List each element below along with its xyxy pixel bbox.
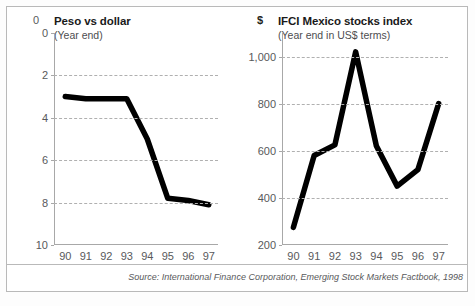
x-tick-label: 93 — [350, 250, 362, 262]
gridline — [282, 57, 448, 58]
x-tick-label: 90 — [287, 250, 299, 262]
chart-panel-peso-vs-dollar: 0 Peso vs dollar (Year end) 024681090919… — [8, 0, 230, 262]
y-tick-label: 400 — [258, 192, 276, 204]
y-tick-mark — [51, 245, 54, 246]
x-tick-label: 93 — [121, 250, 133, 262]
y-tick-mark — [51, 203, 54, 204]
figure-root: 0 Peso vs dollar (Year end) 024681090919… — [0, 0, 475, 306]
y-tick-label: 10 — [36, 239, 48, 251]
gridline — [282, 198, 448, 199]
chart-panel-ifci-mexico-stocks-index: $ IFCI Mexico stocks index (Year end in … — [232, 0, 460, 262]
y-tick-mark — [51, 33, 54, 34]
x-tick-label: 94 — [370, 250, 382, 262]
y-tick-label: 4 — [42, 112, 48, 124]
series-line-peso-vs-dollar — [54, 33, 218, 245]
y-tick-label: 2 — [42, 69, 48, 81]
x-tick-label: 97 — [203, 250, 215, 262]
gridline — [54, 203, 218, 204]
plot-area-peso-vs-dollar: 02468109091929394959697 — [54, 33, 218, 245]
x-tick-label: 95 — [391, 250, 403, 262]
x-tick-label: 94 — [141, 250, 153, 262]
y-tick-mark — [279, 57, 282, 58]
y-tick-mark — [51, 75, 54, 76]
y-tick-mark — [279, 104, 282, 105]
x-tick-label: 90 — [59, 250, 71, 262]
source-note: Source: International Finance Corporatio… — [128, 272, 463, 282]
x-tick-label: 95 — [162, 250, 174, 262]
y-tick-label: 800 — [258, 98, 276, 110]
y-tick-mark — [51, 160, 54, 161]
x-tick-label: 92 — [329, 250, 341, 262]
data-series-line — [65, 97, 209, 205]
data-series-line — [293, 52, 438, 227]
y-tick-mark — [279, 198, 282, 199]
x-tick-label: 91 — [308, 250, 320, 262]
gridline — [282, 104, 448, 105]
series-line-ifci-mexico-stocks-index — [282, 33, 448, 245]
y-unit-label-right: $ — [232, 14, 270, 27]
y-tick-label: 6 — [42, 154, 48, 166]
x-tick-label: 96 — [182, 250, 194, 262]
gridline — [54, 75, 218, 76]
y-tick-label: 8 — [42, 197, 48, 209]
y-tick-mark — [279, 245, 282, 246]
x-tick-label: 97 — [433, 250, 445, 262]
y-tick-label: 200 — [258, 239, 276, 251]
x-tick-label: 96 — [412, 250, 424, 262]
chart-title-right: IFCI Mexico stocks index — [278, 14, 412, 28]
source-divider: Source: International Finance Corporatio… — [7, 264, 468, 292]
x-tick-label: 92 — [100, 250, 112, 262]
gridline — [54, 160, 218, 161]
y-tick-mark — [279, 151, 282, 152]
y-tick-label: 600 — [258, 145, 276, 157]
y-tick-label: 1,000 — [248, 51, 276, 63]
gridline — [54, 118, 218, 119]
y-tick-label: 0 — [42, 27, 48, 39]
x-tick-label: 91 — [80, 250, 92, 262]
y-tick-mark — [51, 118, 54, 119]
chart-title-left: Peso vs dollar — [54, 14, 131, 28]
y-unit-label-left: 0 — [8, 14, 46, 27]
gridline — [282, 151, 448, 152]
plot-area-ifci-mexico-stocks-index: 2004006008001,0009091929394959697 — [282, 33, 448, 245]
